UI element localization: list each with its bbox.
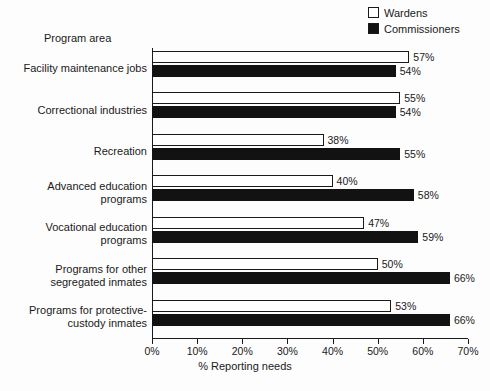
category-label: Recreation — [94, 145, 147, 158]
y-axis-title: Program area — [44, 32, 111, 45]
bar-value-label: 54% — [400, 106, 421, 118]
x-axis-tick — [468, 339, 469, 344]
bar-value-label: 55% — [404, 92, 425, 104]
bar-wardens — [152, 217, 364, 229]
bar-value-label: 50% — [382, 258, 403, 270]
x-axis-tick-label: 50% — [367, 345, 388, 357]
bar-value-label: 47% — [368, 217, 389, 229]
x-axis-tick-label: 0% — [144, 345, 159, 357]
x-axis-tick — [197, 339, 198, 344]
bar-commissioners — [152, 106, 396, 118]
x-axis-tick — [152, 339, 153, 344]
x-axis-tick-label: 40% — [322, 345, 343, 357]
bar-group: 47%59% — [152, 214, 468, 255]
bar-group: 55%54% — [152, 89, 468, 130]
bar-value-label: 59% — [422, 231, 443, 243]
bar-wardens — [152, 134, 324, 146]
plot-area: 0%10%20%30%40%50%60%70%57%54%55%54%38%55… — [152, 48, 468, 338]
bar-value-label: 54% — [400, 65, 421, 77]
bar-value-label: 66% — [454, 314, 475, 326]
category-label-line: Advanced education — [47, 180, 147, 193]
bar-commissioners — [152, 189, 414, 201]
chart-legend: Wardens Commissioners — [368, 6, 460, 35]
category-label-line: Recreation — [94, 145, 147, 158]
bar-commissioners — [152, 148, 400, 160]
bar-value-label: 58% — [418, 189, 439, 201]
category-label: Advanced educationprograms — [47, 180, 147, 206]
bar-group: 38%55% — [152, 131, 468, 172]
bar-chart: Wardens Commissioners Program area Facil… — [0, 0, 490, 391]
category-label-line: Programs for other — [50, 263, 147, 276]
bar-commissioners — [152, 314, 450, 326]
category-label-line: custody inmates — [29, 317, 147, 330]
bar-value-label: 40% — [337, 175, 358, 187]
bar-commissioners — [152, 65, 396, 77]
bar-wardens — [152, 175, 333, 187]
category-label: Vocational educationprograms — [45, 221, 147, 247]
x-axis-tick-label: 70% — [457, 345, 478, 357]
x-axis-tick-label: 30% — [277, 345, 298, 357]
category-label-line: Programs for protective- — [29, 304, 147, 317]
x-axis-tick — [242, 339, 243, 344]
x-axis-tick-label: 20% — [232, 345, 253, 357]
legend-swatch-open-square-icon — [368, 7, 379, 18]
x-axis-tick — [378, 339, 379, 344]
category-label-line: Correctional industries — [38, 104, 147, 117]
bar-value-label: 38% — [328, 134, 349, 146]
category-label-line: programs — [47, 193, 147, 206]
bar-group: 50%66% — [152, 255, 468, 296]
x-axis-tick — [287, 339, 288, 344]
x-axis-tick — [333, 339, 334, 344]
category-label-line: programs — [45, 234, 147, 247]
legend-swatch-filled-square-icon — [368, 23, 379, 34]
category-label: Correctional industries — [38, 104, 147, 117]
legend-label-commissioners: Commissioners — [384, 23, 460, 35]
category-label-line: segregated inmates — [50, 276, 147, 289]
bar-value-label: 66% — [454, 272, 475, 284]
category-label: Programs for othersegregated inmates — [50, 263, 147, 289]
x-axis-tick-label: 60% — [412, 345, 433, 357]
x-axis-tick — [423, 339, 424, 344]
y-axis-tick-labels: Facility maintenance jobsCorrectional in… — [0, 48, 147, 338]
legend-item-commissioners: Commissioners — [368, 22, 460, 35]
x-axis-title: % Reporting needs — [0, 360, 490, 373]
bar-wardens — [152, 300, 391, 312]
legend-item-wardens: Wardens — [368, 6, 460, 19]
category-label: Facility maintenance jobs — [23, 62, 147, 75]
category-label-line: Vocational education — [45, 221, 147, 234]
category-label: Programs for protective-custody inmates — [29, 304, 147, 330]
bar-commissioners — [152, 272, 450, 284]
bar-value-label: 53% — [395, 300, 416, 312]
x-axis-tick-label: 10% — [187, 345, 208, 357]
bar-group: 53%66% — [152, 297, 468, 338]
bar-wardens — [152, 51, 409, 63]
bar-value-label: 55% — [404, 148, 425, 160]
x-axis-line — [152, 338, 468, 339]
bar-commissioners — [152, 231, 418, 243]
bar-wardens — [152, 258, 378, 270]
legend-label-wardens: Wardens — [384, 7, 428, 19]
bar-group: 57%54% — [152, 48, 468, 89]
bar-group: 40%58% — [152, 172, 468, 213]
bar-value-label: 57% — [413, 51, 434, 63]
category-label-line: Facility maintenance jobs — [23, 62, 147, 75]
bar-wardens — [152, 92, 400, 104]
